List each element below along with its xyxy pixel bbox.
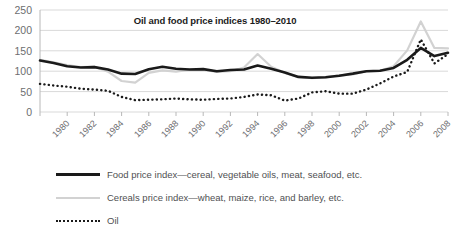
- chart-legend: Food price index—cereal, vegetable oils,…: [0, 163, 456, 232]
- legend-item-food: Food price index—cereal, vegetable oils,…: [0, 163, 456, 186]
- chart-figure: 050100150200250 198019821984198619881990…: [0, 0, 456, 246]
- y-tick-label: 100: [2, 66, 32, 76]
- y-tick-label: 50: [2, 87, 32, 97]
- y-tick-label: 0: [2, 107, 32, 117]
- y-tick-label: 200: [2, 25, 32, 35]
- solid-thin-line-key: [56, 193, 100, 203]
- y-tick-label: 250: [2, 5, 32, 15]
- legend-label-cereals: Cereals price index—wheat, maize, rice, …: [107, 192, 344, 203]
- legend-item-oil: Oil: [0, 209, 456, 232]
- plot-area: 050100150200250 198019821984198619881990…: [0, 0, 456, 160]
- y-tick-label: 150: [2, 46, 32, 56]
- dotted-line-key: [56, 216, 100, 226]
- legend-label-oil: Oil: [107, 215, 119, 226]
- solid-thick-line-key: [56, 170, 100, 180]
- legend-item-cereals: Cereals price index—wheat, maize, rice, …: [0, 186, 456, 209]
- chart-title: Oil and food price indices 1980–2010: [110, 15, 320, 26]
- data-series-group: [40, 21, 448, 100]
- legend-label-food: Food price index—cereal, vegetable oils,…: [107, 169, 362, 180]
- x-tick-marks: [40, 112, 448, 116]
- series-line-food-price-index: [40, 48, 448, 78]
